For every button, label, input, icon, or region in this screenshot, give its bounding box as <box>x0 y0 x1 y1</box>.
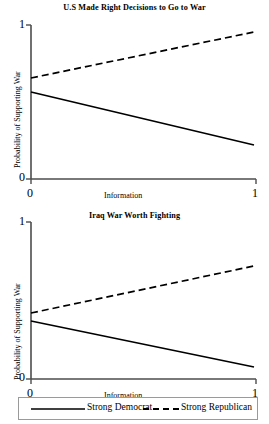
series-line-strong-democrat <box>31 92 254 145</box>
legend-label-strong-republican: Strong Republican <box>181 402 252 412</box>
series-line-strong-democrat <box>31 321 254 367</box>
plot-area-panel-1 <box>0 0 269 208</box>
series-line-strong-republican <box>31 266 254 313</box>
x-axis-label: Information <box>104 191 142 200</box>
figure-two-panel-line-charts: U.S Made Right Decisions to Go to War Pr… <box>0 0 269 424</box>
y-axis-label: Probability of Supporting War <box>13 283 22 380</box>
x-tick-label-0: 0 <box>27 187 33 199</box>
legend: Strong Democrat Strong Republican <box>18 397 258 420</box>
chart-panel-us-made-right-decisions: U.S Made Right Decisions to Go to War Pr… <box>0 0 269 208</box>
series-line-strong-republican <box>31 32 254 78</box>
x-tick-label-1: 1 <box>252 187 258 199</box>
y-tick-label-1: 1 <box>19 18 25 30</box>
y-tick-label-1: 1 <box>19 215 25 227</box>
y-tick-label-0: 0 <box>19 171 25 183</box>
plot-area-panel-2 <box>0 208 269 390</box>
legend-label-strong-democrat: Strong Democrat <box>87 402 152 412</box>
chart-panel-iraq-war-worth-fighting: Iraq War Worth Fighting Probability of S… <box>0 208 269 390</box>
y-tick-label-0: 0 <box>19 371 25 383</box>
y-axis-label: Probability of Supporting War <box>13 71 22 168</box>
